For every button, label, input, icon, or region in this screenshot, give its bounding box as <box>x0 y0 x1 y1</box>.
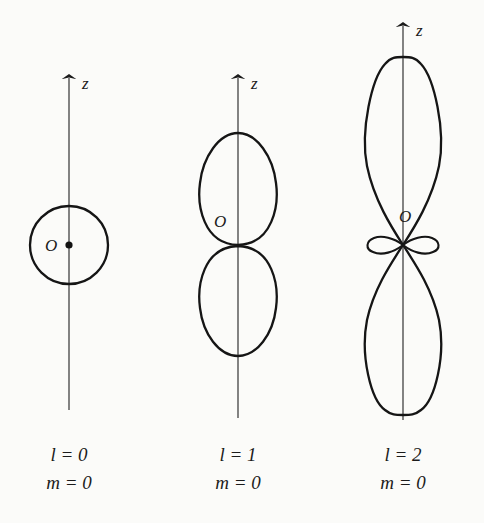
origin-label-l2: O <box>399 207 411 227</box>
radiation-pattern-left-minor-lobe-l2 <box>367 237 403 254</box>
origin-label-l0: O <box>45 236 57 256</box>
caption-l0-l-value: l = 0 <box>19 441 119 469</box>
caption-l1-l-value: l = 1 <box>188 441 288 469</box>
caption-l0-m-value: m = 0 <box>19 469 119 497</box>
caption-l2-m-value: m = 0 <box>353 469 453 497</box>
caption-l2-l-value: l = 2 <box>353 441 453 469</box>
panel-l0-graphic <box>30 78 108 410</box>
z-axis-label-l0: z <box>82 74 89 94</box>
radiation-pattern-right-minor-lobe-l2 <box>403 237 439 254</box>
origin-point-marker-l0 <box>65 241 72 248</box>
caption-l2: l = 2 m = 0 <box>353 441 453 496</box>
caption-l0: l = 0 m = 0 <box>19 441 119 496</box>
origin-label-l1: O <box>214 212 226 232</box>
spherical-harmonic-radiation-patterns-figure: z z z O O O l = 0 m = 0 l = 1 m = 0 l = … <box>0 0 484 523</box>
z-axis-label-l1: z <box>251 74 258 94</box>
caption-l1-m-value: m = 0 <box>188 469 288 497</box>
caption-l1: l = 1 m = 0 <box>188 441 288 496</box>
z-axis-label-l2: z <box>416 21 423 41</box>
panel-l1-graphic <box>199 78 276 418</box>
